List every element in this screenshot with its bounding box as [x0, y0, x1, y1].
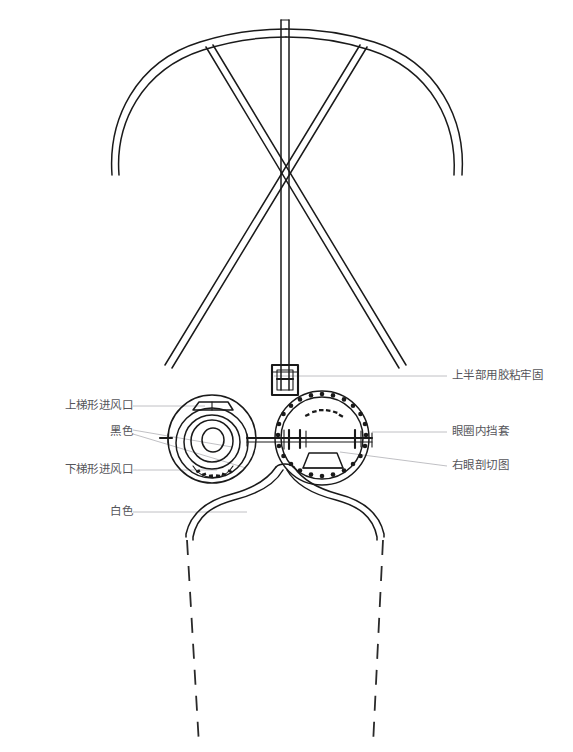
vertical-center-rod	[281, 20, 289, 390]
label-white-color: 白色	[110, 506, 133, 518]
rod-sleeve-connector	[272, 365, 298, 395]
upper-dash-marks	[305, 409, 344, 418]
label-inner-eye-ring-sleeve: 眼圈内挡套	[452, 426, 509, 438]
dashed-lower-skirt-outline	[187, 540, 383, 745]
label-right-eye-section-view: 右眼剖切图	[452, 460, 509, 472]
face-skirt-outline	[186, 464, 384, 540]
arch-headband-frame	[112, 29, 463, 175]
diagram-canvas: .ink{fill:none;stroke:#1a1a1a;stroke-wid…	[0, 0, 573, 752]
label-black-color: 黑色	[110, 426, 133, 438]
horizontal-connecting-axle	[247, 430, 372, 449]
label-upper-trapezoid-air-inlet: 上梯形进风口	[65, 400, 133, 412]
label-lower-trapezoid-air-inlet: 下梯形进风口	[65, 464, 133, 476]
label-upper-part-glued-firmly: 上半部用胶粘牢固	[452, 370, 543, 382]
x-crossing-struts	[165, 45, 406, 368]
